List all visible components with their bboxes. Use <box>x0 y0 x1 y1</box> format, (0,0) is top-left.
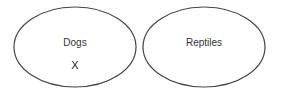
diagram-canvas: Dogs X Reptiles <box>0 0 281 93</box>
set-reptiles: Reptiles <box>143 7 265 87</box>
reptiles-label: Reptiles <box>186 37 222 48</box>
dogs-label: Dogs <box>63 37 86 48</box>
set-dogs: Dogs X <box>14 7 136 87</box>
dogs-item-x: X <box>71 59 79 71</box>
